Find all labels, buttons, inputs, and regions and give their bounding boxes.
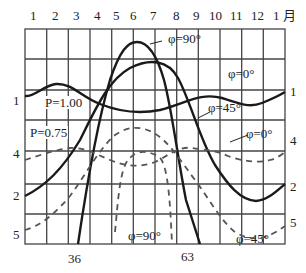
annotation-phi0-mid: φ=0°: [246, 127, 273, 140]
x-unit-label: 月: [283, 9, 296, 22]
x-tick-5: 5: [113, 9, 120, 22]
x-tick-9: 9: [193, 9, 200, 22]
x-tick-10: 10: [209, 9, 222, 22]
x-tick-7: 7: [150, 9, 157, 22]
right-marker-1: 1: [290, 85, 297, 98]
annotation-phi90-bottom: φ=90°: [128, 229, 161, 242]
left-marker-4: 4: [13, 147, 20, 160]
annotation-phi90-top: φ=90°: [168, 32, 201, 45]
annotation-phi0-top: φ=0°: [228, 67, 255, 80]
x-tick-11: 11: [230, 9, 243, 22]
label-p075: P=0.75: [29, 126, 68, 139]
label-p100: P=1.00: [44, 96, 83, 109]
left-marker-1: 1: [13, 94, 20, 107]
x-tick-4: 4: [94, 9, 101, 22]
bottom-label-63: 63: [181, 250, 194, 263]
x-tick-13: 1: [273, 9, 280, 22]
x-tick-12: 12: [251, 9, 264, 22]
x-tick-6: 6: [130, 9, 137, 22]
left-marker-2: 2: [13, 189, 20, 202]
x-tick-1: 1: [30, 9, 37, 22]
right-marker-5: 5: [290, 216, 297, 229]
right-marker-2: 2: [290, 180, 297, 193]
bottom-label-36: 36: [68, 252, 81, 265]
left-marker-5: 5: [13, 228, 20, 241]
right-marker-4: 4: [290, 134, 297, 147]
leader-phi90-top: [150, 41, 162, 44]
x-tick-2: 2: [52, 9, 59, 22]
x-tick-8: 8: [173, 9, 180, 22]
annotation-phi45-mid: φ=45°: [208, 101, 241, 114]
annotation-phi45-bottom: φ=45°: [236, 232, 269, 245]
x-tick-3: 3: [73, 9, 80, 22]
